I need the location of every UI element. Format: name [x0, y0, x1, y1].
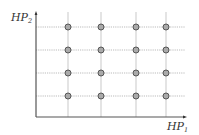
- grid-point: [133, 93, 139, 99]
- x-axis-label: HP1: [166, 120, 188, 134]
- grid-point: [65, 24, 71, 30]
- grid-point: [163, 93, 169, 99]
- grid-points: [65, 24, 169, 99]
- grid-point: [98, 47, 104, 53]
- grid-point: [98, 93, 104, 99]
- grid-point: [65, 47, 71, 53]
- grid-point: [163, 24, 169, 30]
- vertical-grid-lines: [68, 12, 166, 117]
- y-axis-label: HP2: [10, 11, 32, 25]
- axes: [36, 13, 185, 117]
- grid-point: [133, 47, 139, 53]
- grid-point: [65, 70, 71, 76]
- grid-point: [133, 70, 139, 76]
- grid-point: [98, 24, 104, 30]
- grid-point: [133, 24, 139, 30]
- grid-point: [98, 70, 104, 76]
- grid-point: [163, 70, 169, 76]
- x-axis-arrow-icon: [183, 116, 187, 119]
- grid-point: [65, 93, 71, 99]
- grid-search-diagram: HP2 HP1: [0, 0, 199, 135]
- grid-point: [163, 47, 169, 53]
- y-axis-arrow-icon: [35, 11, 38, 15]
- horizontal-grid-lines: [36, 27, 185, 96]
